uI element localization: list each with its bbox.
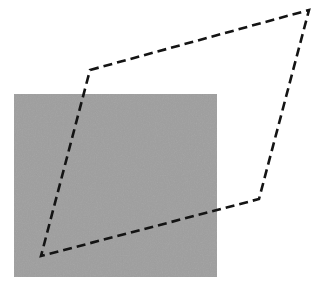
gray-square-texture <box>14 94 217 277</box>
figure-svg <box>0 0 321 296</box>
gray-square-group <box>14 94 217 277</box>
figure-canvas: Dashed quadrilateral overlaid on a gray … <box>0 0 321 296</box>
